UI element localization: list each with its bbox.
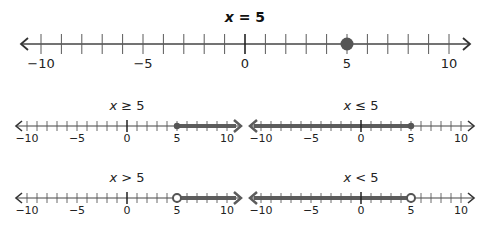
number-line-title: x < 5 — [342, 170, 378, 185]
tick-label: 0 — [358, 204, 365, 217]
tick-label: 10 — [441, 56, 458, 71]
tick-marks — [261, 192, 461, 204]
tick-label: 5 — [174, 204, 181, 217]
tick-label: −10 — [27, 56, 54, 71]
tick-label: 0 — [241, 56, 249, 71]
tick-marks — [27, 120, 227, 132]
open-point-marker — [173, 194, 181, 202]
tick-label: 5 — [408, 204, 415, 217]
number-line-greater-equal: x ≥ 5 −10 −5 0 5 10 — [15, 98, 241, 145]
tick-label: 10 — [454, 204, 468, 217]
number-line-title: x = 5 — [224, 9, 265, 25]
number-line-title: x > 5 — [108, 170, 144, 185]
tick-label: −5 — [69, 132, 85, 145]
tick-label: −5 — [303, 204, 319, 217]
tick-label: 0 — [358, 132, 365, 145]
tick-marks — [41, 34, 449, 54]
tick-label: −10 — [15, 204, 38, 217]
number-line-equal: x = 5 −10 −5 0 5 10 — [21, 9, 470, 71]
tick-label: 10 — [454, 132, 468, 145]
tick-marks — [261, 120, 461, 132]
tick-label: 5 — [343, 56, 351, 71]
tick-label: 5 — [408, 132, 415, 145]
closed-point-marker — [174, 123, 180, 129]
tick-label: 10 — [220, 204, 234, 217]
number-line-title: x ≤ 5 — [342, 98, 378, 113]
tick-label: 5 — [174, 132, 181, 145]
tick-marks — [27, 192, 227, 204]
tick-label: −5 — [133, 56, 152, 71]
tick-label: 0 — [124, 204, 131, 217]
number-lines-figure: x = 5 −10 −5 0 5 10 x ≥ 5 −10 −5 0 5 10 … — [0, 0, 489, 229]
closed-point-marker — [408, 123, 414, 129]
tick-label: −5 — [303, 132, 319, 145]
number-line-less: x < 5 −10 −5 0 5 10 — [249, 170, 474, 217]
tick-label: 0 — [124, 132, 131, 145]
number-line-greater: x > 5 −10 −5 0 5 10 — [15, 170, 241, 217]
open-point-marker — [407, 194, 415, 202]
number-line-title: x ≥ 5 — [108, 98, 144, 113]
tick-label: 10 — [220, 132, 234, 145]
tick-label: −5 — [69, 204, 85, 217]
closed-point-marker — [341, 38, 354, 51]
number-line-less-equal: x ≤ 5 −10 −5 0 5 10 — [249, 98, 474, 145]
tick-label: −10 — [249, 204, 272, 217]
tick-label: −10 — [249, 132, 272, 145]
tick-label: −10 — [15, 132, 38, 145]
